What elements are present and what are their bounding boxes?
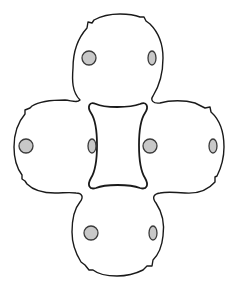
bottom-right-dot	[149, 226, 157, 240]
bottom-left-dot	[84, 226, 98, 240]
left-left-dot	[19, 139, 33, 153]
dots-group	[19, 51, 217, 240]
central-hole-outline	[89, 103, 147, 188]
top-left-dot	[82, 51, 96, 65]
cloverleaf-diagram	[0, 0, 233, 292]
cloverleaf-svg	[0, 0, 233, 292]
left-right-dot	[88, 139, 96, 153]
top-right-dot	[148, 51, 156, 65]
right-right-dot	[209, 139, 217, 153]
right-left-dot	[143, 139, 157, 153]
outer-outline	[14, 14, 224, 276]
